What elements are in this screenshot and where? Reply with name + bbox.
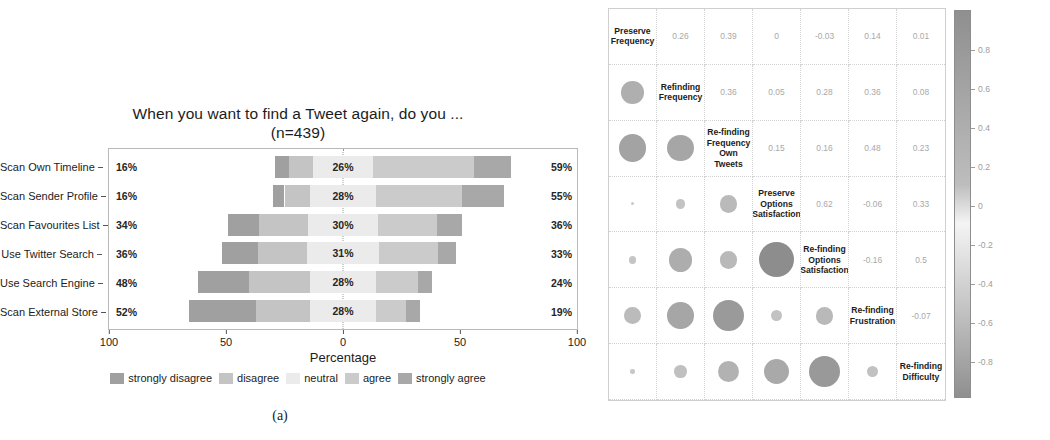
bar-segment (462, 185, 504, 207)
stacked-bar: 28% (109, 185, 577, 207)
x-axis-tick: 50 (220, 330, 232, 348)
correlation-matrix-grid: Preserve Frequency0.260.390-0.030.140.01… (608, 8, 946, 401)
correlation-circle (764, 359, 790, 385)
colorbar-tick-labels: 0.80.60.40.20-0.2-0.4-0.6-0.8 (971, 10, 1049, 398)
right-total-value: 19% (524, 301, 572, 323)
matrix-circle-cell (609, 65, 657, 121)
colorbar-tick: -0.2 (971, 240, 993, 250)
tick-mark (343, 330, 344, 334)
matrix-value-cell: 0.36 (849, 65, 897, 121)
colorbar-tick-label: 0.2 (978, 162, 990, 172)
matrix-value-cell: 0.26 (657, 9, 705, 65)
matrix-circle-cell (657, 344, 705, 400)
tick-label: 0 (340, 336, 346, 348)
matrix-value-cell: 0.39 (705, 9, 753, 65)
right-total-value: 33% (524, 243, 572, 265)
matrix-circle-cell (849, 344, 897, 400)
matrix-value-cell: 0.5 (897, 232, 945, 288)
matrix-circle-cell (609, 232, 657, 288)
bar-segment (259, 214, 308, 236)
legend-swatch (286, 373, 300, 384)
correlation-circle (759, 242, 794, 277)
correlation-circle (720, 251, 738, 269)
matrix-value-cell: 0.08 (897, 65, 945, 121)
matrix-value-cell: 0.62 (801, 177, 849, 233)
left-total-percentages: 16%16%34%36%48%52% (116, 148, 156, 330)
matrix-diagonal-label: Preserve Frequency (609, 9, 657, 65)
colorbar-tick: -0.8 (971, 357, 993, 367)
bar-segment (273, 185, 285, 207)
correlation-circle (771, 310, 782, 321)
neutral-percent-label: 28% (332, 271, 353, 293)
matrix-circle-cell (609, 121, 657, 177)
matrix-value-cell: -0.03 (801, 9, 849, 65)
colorbar-tick-label: 0.6 (978, 84, 990, 94)
legend-item: agree (345, 372, 391, 384)
colorbar-tick-label: -0.4 (978, 279, 993, 289)
bar-segment (474, 156, 511, 178)
matrix-value-cell: 0.48 (849, 121, 897, 177)
chart-title: When you want to find a Tweet again, do … (0, 104, 596, 142)
matrix-circle-cell (657, 177, 705, 233)
bar-segment (289, 156, 312, 178)
colorbar-tick: -0.6 (971, 318, 993, 328)
matrix-circle-cell (657, 232, 705, 288)
bar-row: 31% (109, 242, 577, 264)
matrix-circle-cell (753, 232, 801, 288)
matrix-circle-cell (753, 344, 801, 400)
matrix-value-cell: 0.36 (705, 65, 753, 121)
correlation-circle (631, 202, 634, 205)
matrix-circle-cell (705, 177, 753, 233)
chart-legend: strongly disagreedisagreeneutralagreestr… (0, 372, 596, 384)
bar-segment (373, 156, 474, 178)
colorbar-tick-label: -0.8 (978, 357, 993, 367)
bar-segment (437, 214, 463, 236)
bar-segment (189, 300, 257, 322)
correlation-circle (816, 307, 834, 325)
bar-rows: 26%28%30%31%28%28% (109, 149, 577, 329)
matrix-circle-cell (609, 177, 657, 233)
matrix-value-cell: 0.23 (897, 121, 945, 177)
legend-swatch (345, 373, 359, 384)
colorbar-tick-mark (971, 128, 975, 129)
correlation-circle (667, 135, 694, 162)
colorbar-tick-label: 0.4 (978, 123, 990, 133)
colorbar-tick-mark (971, 206, 975, 207)
neutral-percent-label: 28% (332, 300, 353, 322)
correlation-circle (676, 199, 686, 209)
bar-segment (275, 156, 289, 178)
legend-item: neutral (286, 372, 338, 384)
correlation-circle (718, 361, 739, 382)
stacked-bar: 28% (109, 271, 577, 293)
colorbar-tick-mark (971, 89, 975, 90)
tick-label: 100 (568, 336, 586, 348)
matrix-diagonal-label: Re-finding Frequency Own Tweets (705, 121, 753, 177)
right-total-value: 24% (524, 272, 572, 294)
matrix-value-cell: 0.16 (801, 121, 849, 177)
bar-row: 28% (109, 271, 577, 293)
bar-segment (249, 271, 310, 293)
legend-swatch (110, 373, 124, 384)
panel-a-bar-chart: When you want to find a Tweet again, do … (0, 0, 596, 440)
matrix-value-cell: -0.16 (849, 232, 897, 288)
y-axis-label: Scan External Store (0, 301, 106, 323)
colorbar-tick: 0.4 (971, 123, 990, 133)
matrix-circle-cell (705, 344, 753, 400)
legend-label: disagree (237, 372, 279, 384)
stacked-bar: 26% (109, 156, 577, 178)
colorbar-tick: -0.4 (971, 279, 993, 289)
bar-segment (438, 242, 457, 264)
left-total-value: 16% (116, 156, 156, 178)
correlation-circle (619, 134, 647, 162)
left-total-value: 48% (116, 272, 156, 294)
matrix-value-cell: 0.28 (801, 65, 849, 121)
bar-segment (228, 214, 258, 236)
correlation-circle (630, 369, 634, 373)
colorbar-tick: 0.8 (971, 45, 990, 55)
colorbar-tick-mark (971, 362, 975, 363)
stacked-bar: 31% (109, 242, 577, 264)
y-axis-label: Scan Favourites List (0, 214, 106, 236)
right-total-value: 36% (524, 214, 572, 236)
tick-label: 100 (100, 336, 118, 348)
left-total-value: 36% (116, 243, 156, 265)
